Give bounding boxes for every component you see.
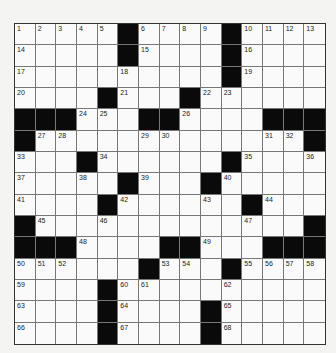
crossword-cell[interactable] — [201, 280, 222, 301]
crossword-cell[interactable]: 65 — [222, 301, 243, 322]
crossword-cell[interactable] — [77, 88, 98, 109]
crossword-cell[interactable] — [56, 216, 77, 237]
crossword-cell[interactable]: 48 — [77, 237, 98, 258]
crossword-cell[interactable]: 67 — [118, 323, 139, 344]
crossword-cell[interactable]: 54 — [180, 259, 201, 280]
crossword-cell[interactable] — [56, 152, 77, 173]
crossword-cell[interactable] — [56, 173, 77, 194]
crossword-cell[interactable] — [304, 323, 325, 344]
crossword-cell[interactable]: 53 — [160, 259, 181, 280]
crossword-cell[interactable]: 42 — [118, 195, 139, 216]
crossword-cell[interactable]: 63 — [15, 301, 36, 322]
crossword-cell[interactable] — [304, 280, 325, 301]
crossword-cell[interactable]: 26 — [180, 109, 201, 130]
crossword-cell[interactable] — [77, 259, 98, 280]
crossword-cell[interactable] — [139, 88, 160, 109]
crossword-cell[interactable] — [201, 109, 222, 130]
crossword-cell[interactable] — [118, 237, 139, 258]
crossword-cell[interactable] — [56, 67, 77, 88]
crossword-cell[interactable] — [118, 216, 139, 237]
crossword-cell[interactable] — [56, 301, 77, 322]
crossword-cell[interactable]: 61 — [139, 280, 160, 301]
crossword-cell[interactable] — [304, 88, 325, 109]
crossword-cell[interactable] — [77, 301, 98, 322]
crossword-cell[interactable]: 44 — [263, 195, 284, 216]
crossword-cell[interactable] — [284, 152, 305, 173]
crossword-cell[interactable] — [118, 131, 139, 152]
crossword-cell[interactable]: 43 — [201, 195, 222, 216]
crossword-cell[interactable] — [36, 67, 57, 88]
crossword-cell[interactable] — [201, 45, 222, 66]
crossword-cell[interactable] — [98, 131, 119, 152]
crossword-cell[interactable]: 29 — [139, 131, 160, 152]
crossword-cell[interactable]: 34 — [98, 152, 119, 173]
crossword-cell[interactable] — [180, 152, 201, 173]
crossword-cell[interactable] — [222, 237, 243, 258]
crossword-cell[interactable] — [180, 216, 201, 237]
crossword-cell[interactable] — [36, 88, 57, 109]
crossword-cell[interactable] — [242, 131, 263, 152]
crossword-cell[interactable] — [284, 195, 305, 216]
crossword-cell[interactable]: 21 — [118, 88, 139, 109]
crossword-cell[interactable]: 19 — [242, 67, 263, 88]
crossword-cell[interactable] — [160, 173, 181, 194]
crossword-cell[interactable] — [56, 45, 77, 66]
crossword-cell[interactable] — [160, 216, 181, 237]
crossword-cell[interactable] — [77, 195, 98, 216]
crossword-cell[interactable]: 62 — [222, 280, 243, 301]
crossword-cell[interactable]: 47 — [242, 216, 263, 237]
crossword-cell[interactable] — [242, 237, 263, 258]
crossword-cell[interactable]: 30 — [160, 131, 181, 152]
crossword-cell[interactable] — [77, 216, 98, 237]
crossword-cell[interactable] — [160, 88, 181, 109]
crossword-cell[interactable]: 5 — [98, 24, 119, 45]
crossword-cell[interactable] — [36, 152, 57, 173]
crossword-cell[interactable] — [222, 131, 243, 152]
crossword-cell[interactable]: 22 — [201, 88, 222, 109]
crossword-cell[interactable]: 58 — [304, 259, 325, 280]
crossword-cell[interactable] — [180, 67, 201, 88]
crossword-cell[interactable] — [36, 280, 57, 301]
crossword-cell[interactable] — [56, 323, 77, 344]
crossword-cell[interactable]: 27 — [36, 131, 57, 152]
crossword-cell[interactable] — [139, 216, 160, 237]
crossword-cell[interactable] — [263, 173, 284, 194]
crossword-cell[interactable] — [180, 45, 201, 66]
crossword-cell[interactable] — [263, 152, 284, 173]
crossword-cell[interactable]: 59 — [15, 280, 36, 301]
crossword-cell[interactable]: 28 — [56, 131, 77, 152]
crossword-cell[interactable] — [304, 195, 325, 216]
crossword-cell[interactable] — [263, 67, 284, 88]
crossword-cell[interactable]: 39 — [139, 173, 160, 194]
crossword-cell[interactable]: 24 — [77, 109, 98, 130]
crossword-cell[interactable] — [201, 131, 222, 152]
crossword-cell[interactable]: 33 — [15, 152, 36, 173]
crossword-cell[interactable] — [98, 237, 119, 258]
crossword-cell[interactable] — [36, 195, 57, 216]
crossword-cell[interactable]: 45 — [36, 216, 57, 237]
crossword-cell[interactable] — [304, 67, 325, 88]
crossword-cell[interactable] — [284, 45, 305, 66]
crossword-cell[interactable]: 64 — [118, 301, 139, 322]
crossword-cell[interactable] — [284, 88, 305, 109]
crossword-cell[interactable] — [56, 195, 77, 216]
crossword-cell[interactable]: 60 — [118, 280, 139, 301]
crossword-cell[interactable] — [284, 323, 305, 344]
crossword-cell[interactable] — [160, 301, 181, 322]
crossword-cell[interactable] — [284, 216, 305, 237]
crossword-cell[interactable] — [77, 131, 98, 152]
crossword-cell[interactable] — [160, 152, 181, 173]
crossword-cell[interactable] — [139, 195, 160, 216]
crossword-cell[interactable] — [263, 301, 284, 322]
crossword-cell[interactable] — [77, 280, 98, 301]
crossword-cell[interactable] — [139, 67, 160, 88]
crossword-cell[interactable] — [263, 216, 284, 237]
crossword-cell[interactable] — [201, 259, 222, 280]
crossword-cell[interactable] — [180, 301, 201, 322]
crossword-cell[interactable]: 18 — [118, 67, 139, 88]
crossword-cell[interactable] — [77, 67, 98, 88]
crossword-cell[interactable]: 13 — [304, 24, 325, 45]
crossword-cell[interactable] — [139, 323, 160, 344]
crossword-cell[interactable]: 40 — [222, 173, 243, 194]
crossword-cell[interactable] — [56, 280, 77, 301]
